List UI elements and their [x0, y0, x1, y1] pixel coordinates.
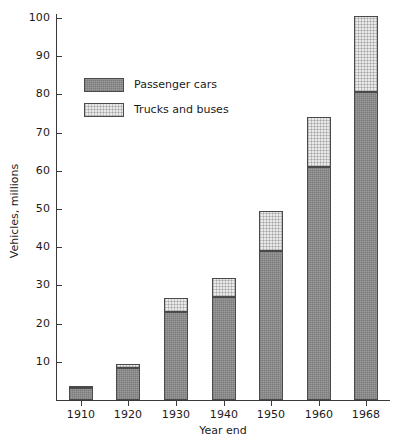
y-tick-mark	[57, 133, 62, 134]
bar-segment-passenger-cars	[307, 167, 331, 400]
y-tick-label: 50	[16, 203, 50, 214]
y-tick-mark	[57, 94, 62, 95]
y-tick-label: 30	[16, 279, 50, 290]
legend-item-trucks-and-buses: Trucks and buses	[84, 101, 264, 118]
x-tick-mark	[319, 401, 320, 406]
y-tick-label: 90	[16, 50, 50, 61]
bar-1960	[307, 117, 331, 400]
bar-segment-passenger-cars	[69, 388, 93, 400]
y-tick-label-wrap: 10	[12, 356, 50, 367]
bar-1940	[212, 278, 236, 400]
x-axis-spine	[56, 400, 390, 401]
passenger-cars-swatch-icon	[84, 78, 124, 92]
y-tick-mark	[57, 247, 62, 248]
bar-segment-trucks-and-buses	[164, 298, 188, 312]
bar-1950	[259, 211, 283, 400]
bar-segment-passenger-cars	[164, 312, 188, 400]
y-tick-mark	[57, 18, 62, 19]
y-tick-label-wrap: 20	[12, 318, 50, 329]
bar-segment-passenger-cars	[116, 368, 140, 400]
y-axis-spine	[56, 14, 57, 401]
bar-segment-passenger-cars	[354, 92, 378, 400]
bar-segment-passenger-cars	[259, 251, 283, 400]
x-tick-mark	[81, 401, 82, 406]
y-tick-label: 10	[16, 356, 50, 367]
vehicles-stacked-bar-chart: 102030405060708090100 191019201930194019…	[0, 0, 394, 443]
y-tick-label: 70	[16, 127, 50, 138]
bar-1910	[69, 386, 93, 400]
bar-segment-trucks-and-buses	[259, 211, 283, 251]
y-tick-label: 40	[16, 241, 50, 252]
x-tick-label: 1968	[336, 408, 394, 421]
x-axis-title: Year end	[56, 424, 390, 437]
y-tick-label-wrap: 30	[12, 279, 50, 290]
y-tick-label-wrap: 100	[12, 12, 50, 23]
y-tick-label-wrap: 80	[12, 88, 50, 99]
bar-1968	[354, 16, 378, 400]
y-tick-label: 60	[16, 165, 50, 176]
y-tick-label: 100	[16, 12, 50, 23]
legend-label-passenger-cars: Passenger cars	[134, 78, 217, 91]
y-tick-label-wrap: 90	[12, 50, 50, 61]
x-tick-mark	[128, 401, 129, 406]
x-tick-mark	[366, 401, 367, 406]
legend-label-trucks-and-buses: Trucks and buses	[134, 103, 229, 116]
y-tick-mark	[57, 56, 62, 57]
chart-legend: Passenger cars Trucks and buses	[84, 76, 264, 126]
y-axis-title: Vehicles, millions	[9, 151, 21, 271]
y-tick-mark	[57, 285, 62, 286]
trucks-and-buses-swatch-icon	[84, 103, 124, 117]
x-tick-mark	[176, 401, 177, 406]
bar-segment-trucks-and-buses	[212, 278, 236, 297]
y-tick-mark	[57, 171, 62, 172]
bar-1920	[116, 364, 140, 400]
y-tick-mark	[57, 362, 62, 363]
y-tick-mark	[57, 324, 62, 325]
bar-1930	[164, 298, 188, 400]
x-tick-mark	[224, 401, 225, 406]
legend-item-passenger-cars: Passenger cars	[84, 76, 264, 93]
y-tick-label: 20	[16, 318, 50, 329]
y-tick-mark	[57, 209, 62, 210]
bar-segment-trucks-and-buses	[354, 16, 378, 92]
y-tick-label-wrap: 70	[12, 127, 50, 138]
bar-segment-trucks-and-buses	[307, 117, 331, 167]
x-tick-mark	[271, 401, 272, 406]
bar-segment-passenger-cars	[212, 297, 236, 400]
y-tick-label: 80	[16, 88, 50, 99]
